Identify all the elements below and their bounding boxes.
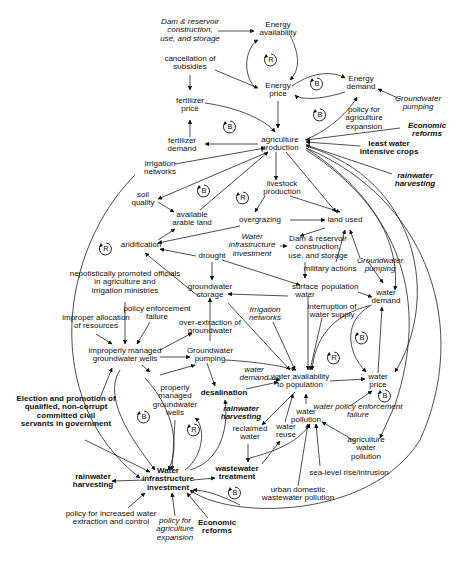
node-agriculture-water-pollution: agriculture water pollution (347, 436, 384, 461)
loop-marker-balancing: B (221, 118, 239, 136)
node-wastewater-treatment: wastewater treatment (215, 465, 258, 482)
node-economic-reforms-bottom: Economic reforms (198, 519, 236, 536)
node-available-arable-land: available arable land (172, 211, 212, 228)
node-aridification: aridification (121, 241, 161, 249)
loop-label: B (311, 106, 329, 124)
node-land-used: land used (328, 216, 363, 224)
loop-marker-balancing: B (311, 106, 329, 124)
node-policy-agriculture-expansion-bottom: policy for agriculture expansion (156, 517, 193, 542)
loop-marker-balancing: B (308, 75, 326, 93)
node-nepotistically-promoted-officials: nepotistically promoted officials in agr… (70, 270, 181, 295)
node-fertilizer-demand: fertilizer demand (168, 137, 197, 154)
node-sea-level-rise-intrusion: sea-level rise/intrusion (309, 469, 389, 477)
loop-label: B (135, 408, 153, 426)
node-energy-availability: Energy availability (260, 21, 297, 38)
node-reclaimed-water: reclaimed water (233, 425, 268, 442)
node-energy-price: Energy price (265, 82, 290, 99)
node-water-policy-enforcement-failure: water policy enforcement failure (314, 403, 403, 420)
node-economic-reforms-top: Economic reforms (408, 122, 446, 139)
loop-label: B (308, 75, 326, 93)
node-agriculture-production: agriculture production (261, 136, 298, 153)
loop-label: B (221, 118, 239, 136)
node-rainwater-harvesting-mid: rainwater harvesting (221, 405, 261, 422)
loop-marker-reinforcing: R (234, 189, 252, 207)
node-policy-agriculture-expansion-top: policy for agriculture expansion (345, 106, 382, 131)
node-improperly-managed-groundwater-wells: improperly managed groundwater wells (89, 347, 162, 364)
loop-marker-balancing: B (135, 408, 153, 426)
node-rainwater-harvesting-top: rainwater harvesting (395, 172, 435, 189)
node-least-water-intensive-crops: least water intensive crops (360, 140, 419, 157)
node-groundwater-pumping-mid: Groundwater pumping (357, 257, 403, 274)
node-irrigation-networks-mid: Irrigation networks (249, 306, 281, 323)
loop-label: B (353, 329, 371, 347)
node-groundwater-pumping-low: Groundwater pumping (187, 347, 233, 364)
loop-marker-reinforcing: R (185, 421, 203, 439)
loop-marker-balancing: B (195, 182, 213, 200)
node-election-and-promotion: Election and promotion of qualified, non… (16, 395, 115, 429)
node-soil-quality: soil quality (131, 191, 154, 208)
node-drought: drought (198, 252, 225, 260)
node-irrigation-networks-top: irrigation networks (144, 160, 176, 177)
node-rainwater-harvesting-bottom: rainwater harvesting (73, 473, 113, 490)
node-water-demand-right: water demand (372, 289, 401, 306)
loop-marker-reinforcing: R (262, 51, 280, 69)
node-urban-domestic-wastewater-pollution: urban domestic wastewater pollution (262, 486, 334, 503)
loop-marker-balancing: B (353, 329, 371, 347)
loop-label: R (325, 349, 343, 367)
loop-label: R (262, 51, 280, 69)
node-fertilizer-price: fertilizer price (176, 97, 204, 114)
loop-label: B (226, 484, 244, 502)
loop-label: B (195, 182, 213, 200)
node-water-reuse: water reuse (276, 423, 296, 440)
node-population: population (322, 283, 359, 291)
loop-label: R (185, 421, 203, 439)
node-energy-demand: Energy demand (347, 75, 376, 92)
loop-marker-balancing: B (376, 387, 394, 405)
node-over-extraction-of-groundwater: over-extraction of groundwater (179, 319, 241, 336)
node-water-infrastructure-investment-mid: Water infrastructure investment (229, 233, 276, 258)
node-overgrazing: overgrazing (239, 216, 281, 224)
causal-loop-diagram: Dam & reservoir construction, use, and s… (0, 0, 472, 564)
node-interruption-of-water-supply: interruption of water supply (308, 303, 357, 320)
node-livestock-production: livestock production (263, 180, 300, 197)
node-groundwater-storage: groundwater storage (188, 283, 232, 300)
loop-label: B (376, 387, 394, 405)
node-improper-allocation-of-resources: improper allocation of resources (62, 314, 130, 331)
node-military-actions: military actions (304, 265, 357, 273)
node-policy-increased-water-extraction: policy for increased water extraction an… (66, 510, 157, 527)
node-properly-managed-groundwater-wells: properly managed groundwater wells (153, 384, 197, 418)
node-groundwater-pumping-top: Groundwater pumping (395, 95, 441, 112)
loop-marker-reinforcing: R (325, 349, 343, 367)
loop-label: R (234, 189, 252, 207)
loop-marker-reinforcing: R (97, 240, 115, 258)
node-dam-reservoir-top: Dam & reservoir construction, use, and s… (160, 18, 220, 43)
loop-marker-balancing: B (226, 484, 244, 502)
node-dam-reservoir-mid: Dam & reservoir construction, use, and s… (288, 235, 348, 260)
node-water-infrastructure-investment-main: Water infrastructure investment (142, 467, 194, 492)
node-desalination: desalination (201, 389, 248, 397)
node-cancellation-of-subsidies: cancellation of subsidies (164, 55, 215, 72)
node-surface-water: surface water (292, 283, 318, 300)
node-water-availability-to-population: water availability to population (271, 373, 330, 390)
node-water-demand-left: water demand (240, 366, 269, 383)
loop-label: R (97, 240, 115, 258)
